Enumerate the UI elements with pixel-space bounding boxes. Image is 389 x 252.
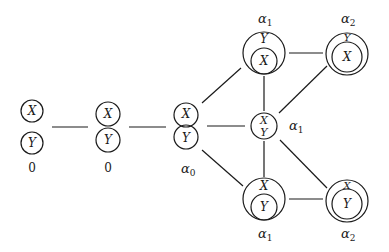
- label-sub: 2: [350, 18, 356, 28]
- label-sub: 2: [350, 233, 356, 243]
- label-sub: 1: [267, 18, 273, 28]
- node-label: α2: [341, 11, 356, 28]
- label-base: α: [289, 118, 298, 133]
- relation-graph: X Y 0 X Y 0 X Y α0 Y X α1 Y X: [0, 0, 389, 252]
- edge-n5-n7: [280, 140, 327, 188]
- var-y: Y: [260, 200, 269, 214]
- var-y: Y: [343, 197, 352, 211]
- label-sub: 1: [298, 125, 304, 135]
- node-label: α1: [258, 11, 273, 28]
- var-y: Y: [260, 32, 269, 46]
- label-base: α: [258, 226, 267, 241]
- node-label: 0: [28, 161, 36, 175]
- node-y-in-x-proper: X Y α2: [326, 180, 368, 243]
- node-separate: X Y 0: [21, 100, 43, 175]
- var-x: X: [181, 107, 191, 121]
- node-equal: X Y α1: [251, 113, 304, 139]
- var-x: X: [259, 54, 269, 68]
- edge-n5-n4: [279, 66, 327, 113]
- node-y-in-x-tangent: X Y α1: [243, 178, 285, 243]
- label-sub: 1: [267, 233, 273, 243]
- label-base: α: [258, 11, 267, 26]
- var-y: Y: [260, 126, 269, 139]
- node-overlapping: X Y α0: [174, 103, 198, 178]
- label-base: α: [181, 161, 190, 176]
- var-x: X: [342, 50, 352, 64]
- label-base: α: [341, 226, 350, 241]
- label-base: α: [341, 11, 350, 26]
- var-x: X: [103, 107, 113, 121]
- edge-n2-n3: [202, 68, 241, 103]
- var-x: X: [342, 180, 351, 191]
- node-touching: X Y 0: [96, 102, 120, 175]
- node-x-in-y-proper: Y X α2: [326, 11, 368, 75]
- var-y: Y: [28, 136, 37, 150]
- var-x: X: [27, 104, 37, 118]
- node-label: α0: [181, 161, 196, 178]
- node-x-in-y-tangent: Y X α1: [243, 11, 285, 74]
- node-label: α2: [341, 226, 356, 243]
- label-sub: 0: [190, 168, 196, 178]
- node-label: α1: [289, 118, 304, 135]
- node-label: α1: [258, 226, 273, 243]
- node-label: 0: [104, 161, 112, 175]
- edge-n2-n6: [202, 150, 243, 186]
- var-x: X: [259, 179, 269, 193]
- var-y: Y: [182, 131, 191, 145]
- var-y: Y: [104, 133, 113, 147]
